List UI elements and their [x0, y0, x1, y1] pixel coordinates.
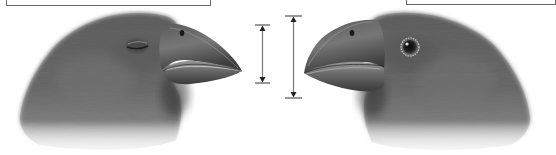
- arrow-down-icon: [291, 92, 297, 98]
- left-beak-depth-marker: [255, 25, 270, 83]
- arrow-down-icon: [260, 77, 266, 83]
- right-finch-nostril: [350, 30, 355, 36]
- left-finch-nostril: [180, 30, 185, 36]
- right-finch-head: [290, 10, 546, 155]
- left-finch-eye-closed: [126, 39, 148, 53]
- arrow-up-icon: [291, 17, 297, 23]
- arrow-up-icon: [260, 26, 266, 32]
- right-finch-eye-open: [400, 37, 420, 57]
- right-beak-depth-marker: [285, 16, 302, 98]
- left-finch-head: [0, 10, 260, 155]
